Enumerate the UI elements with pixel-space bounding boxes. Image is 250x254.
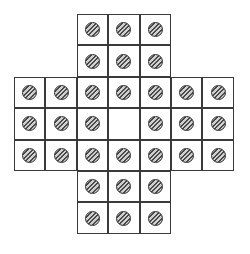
peg-icon[interactable] — [54, 85, 69, 100]
hole-with-peg[interactable] — [14, 77, 45, 108]
hole-with-peg[interactable] — [140, 77, 171, 108]
hole-with-peg[interactable] — [108, 77, 139, 108]
hole-with-peg[interactable] — [108, 14, 139, 45]
hole-with-peg[interactable] — [171, 108, 202, 139]
peg-icon[interactable] — [148, 116, 163, 131]
peg-icon[interactable] — [85, 179, 100, 194]
hole-with-peg[interactable] — [140, 45, 171, 76]
hole-with-peg[interactable] — [14, 108, 45, 139]
peg-icon[interactable] — [148, 211, 163, 226]
peg-icon[interactable] — [116, 211, 131, 226]
peg-icon[interactable] — [54, 148, 69, 163]
peg-icon[interactable] — [211, 116, 226, 131]
hole-with-peg[interactable] — [202, 108, 233, 139]
hole-with-peg[interactable] — [108, 202, 139, 233]
hole-with-peg[interactable] — [77, 77, 108, 108]
hole-with-peg[interactable] — [108, 140, 139, 171]
peg-icon[interactable] — [85, 148, 100, 163]
peg-icon[interactable] — [148, 54, 163, 69]
peg-icon[interactable] — [179, 116, 194, 131]
peg-icon[interactable] — [148, 22, 163, 37]
hole-with-peg[interactable] — [108, 171, 139, 202]
hole-with-peg[interactable] — [77, 171, 108, 202]
hole-with-peg[interactable] — [108, 45, 139, 76]
peg-icon[interactable] — [211, 148, 226, 163]
hole-with-peg[interactable] — [77, 202, 108, 233]
peg-icon[interactable] — [116, 148, 131, 163]
hole-with-peg[interactable] — [140, 14, 171, 45]
peg-icon[interactable] — [85, 22, 100, 37]
peg-icon[interactable] — [148, 179, 163, 194]
hole-with-peg[interactable] — [77, 108, 108, 139]
hole-with-peg[interactable] — [45, 140, 76, 171]
hole-with-peg[interactable] — [77, 45, 108, 76]
peg-icon[interactable] — [148, 148, 163, 163]
hole-with-peg[interactable] — [77, 14, 108, 45]
peg-icon[interactable] — [179, 85, 194, 100]
peg-icon[interactable] — [116, 22, 131, 37]
peg-icon[interactable] — [54, 116, 69, 131]
peg-icon[interactable] — [85, 211, 100, 226]
hole-with-peg[interactable] — [140, 171, 171, 202]
hole-with-peg[interactable] — [140, 140, 171, 171]
peg-icon[interactable] — [22, 148, 37, 163]
hole-with-peg[interactable] — [45, 108, 76, 139]
hole-with-peg[interactable] — [140, 202, 171, 233]
peg-icon[interactable] — [85, 54, 100, 69]
hole-with-peg[interactable] — [202, 140, 233, 171]
hole-with-peg[interactable] — [202, 77, 233, 108]
peg-icon[interactable] — [116, 85, 131, 100]
peg-icon[interactable] — [148, 85, 163, 100]
peg-icon[interactable] — [116, 179, 131, 194]
peg-icon[interactable] — [22, 116, 37, 131]
peg-solitaire-board — [14, 14, 234, 234]
peg-icon[interactable] — [211, 85, 226, 100]
peg-icon[interactable] — [22, 85, 37, 100]
hole-with-peg[interactable] — [45, 77, 76, 108]
peg-icon[interactable] — [85, 116, 100, 131]
empty-hole[interactable] — [108, 108, 139, 139]
hole-with-peg[interactable] — [140, 108, 171, 139]
peg-icon[interactable] — [116, 54, 131, 69]
hole-with-peg[interactable] — [171, 140, 202, 171]
peg-icon[interactable] — [85, 85, 100, 100]
peg-icon[interactable] — [179, 148, 194, 163]
hole-with-peg[interactable] — [171, 77, 202, 108]
hole-with-peg[interactable] — [77, 140, 108, 171]
hole-with-peg[interactable] — [14, 140, 45, 171]
